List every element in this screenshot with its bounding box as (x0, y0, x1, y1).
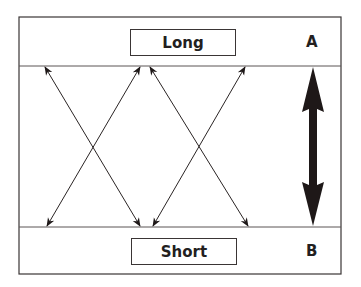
marker-b: B (306, 242, 317, 260)
long-label-box: Long (130, 29, 236, 56)
long-label: Long (162, 34, 203, 52)
short-label: Short (161, 243, 207, 261)
thick-double-arrow-icon (302, 67, 324, 226)
marker-a: A (306, 33, 318, 51)
long-short-diagram: Long Short A B (0, 0, 361, 287)
short-label-box: Short (131, 238, 237, 265)
double-arrow-icon (153, 67, 245, 226)
